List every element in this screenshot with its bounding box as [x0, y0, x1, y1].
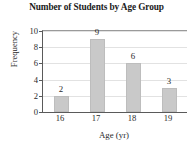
y-tick-mark: [39, 63, 43, 64]
bar-value-label: 3: [167, 76, 171, 86]
bar-chart-figure: Number of Students by Age Group Frequenc…: [0, 0, 193, 152]
y-tick-mark: [39, 47, 43, 48]
bar: [90, 39, 105, 112]
y-axis-title: Frequency: [9, 21, 19, 77]
y-tick-label: 4: [34, 75, 38, 85]
y-tick-mark: [39, 96, 43, 97]
y-tick-label: 0: [34, 107, 38, 117]
x-axis-title: Age (yr): [42, 130, 186, 140]
y-tick-label: 6: [34, 58, 38, 68]
x-tick-label: 19: [164, 113, 173, 123]
bar: [126, 63, 141, 112]
y-tick-label: 8: [34, 42, 38, 52]
x-tick-label: 17: [92, 113, 101, 123]
gridline: [43, 31, 187, 32]
bar-value-label: 2: [59, 84, 63, 94]
y-tick-mark: [39, 80, 43, 81]
bar-value-label: 6: [131, 51, 135, 61]
plot-area: 0246810 2963: [42, 30, 187, 113]
gridline: [43, 80, 187, 81]
y-tick-label: 10: [29, 26, 38, 36]
x-tick-label: 16: [56, 113, 65, 123]
x-tick-label: 18: [128, 113, 137, 123]
y-tick-label: 2: [34, 91, 38, 101]
gridline: [43, 47, 187, 48]
bar: [54, 96, 69, 112]
y-tick-mark: [39, 31, 43, 32]
bar: [162, 88, 177, 112]
chart-title: Number of Students by Age Group: [0, 2, 193, 12]
gridline: [43, 63, 187, 64]
y-tick-mark: [39, 112, 43, 113]
bar-value-label: 9: [95, 27, 99, 37]
